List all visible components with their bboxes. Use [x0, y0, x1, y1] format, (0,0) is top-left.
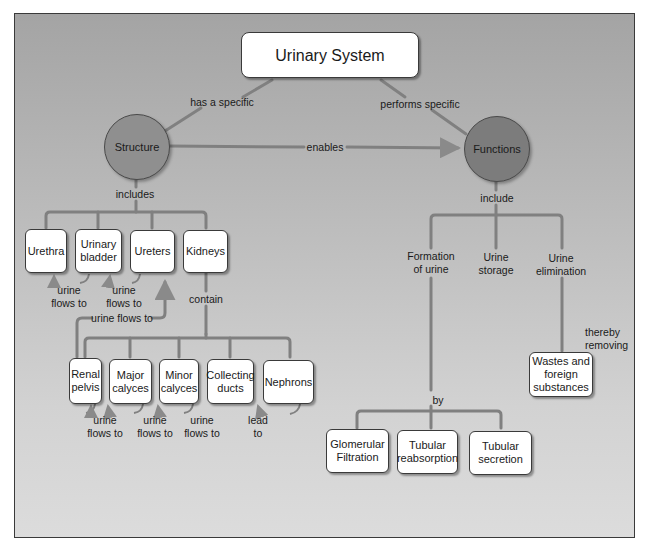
link-label-lead-to: lead to	[243, 414, 273, 440]
node-urine-elimination[interactable]: Urine elimination	[529, 252, 593, 278]
node-urethra[interactable]: Urethra	[25, 229, 67, 273]
node-structure[interactable]: Structure	[104, 114, 170, 180]
node-urinary-bladder[interactable]: Urinary bladder	[75, 229, 122, 273]
node-major-calyces[interactable]: Major calyces	[109, 359, 152, 404]
link-label-urine-flows-to-5: urine flows to	[133, 414, 177, 440]
node-label: Tubular secretion	[472, 440, 529, 466]
link-label-urine-flows-to-1: urine flows to	[47, 284, 91, 310]
link-label-by: by	[432, 394, 443, 407]
node-renal-pelvis[interactable]: Renal pelvis	[69, 358, 102, 404]
node-label: Nephrons	[265, 376, 313, 389]
link-label-enables: enables	[307, 141, 344, 154]
node-label: Glomerular Filtration	[329, 438, 386, 464]
node-label: Tubular reabsorption	[397, 439, 458, 465]
node-label: Ureters	[134, 245, 170, 258]
node-label: Renal pelvis	[71, 368, 100, 394]
node-label: Structure	[115, 141, 160, 153]
link-label-include: include	[480, 192, 513, 205]
node-glomerular-filtration[interactable]: Glomerular Filtration	[326, 429, 389, 473]
link-label-thereby-removing: thereby removing	[585, 326, 631, 352]
node-label: Kidneys	[186, 245, 225, 258]
node-label: Functions	[473, 143, 521, 155]
node-minor-calyces[interactable]: Minor calyces	[159, 359, 199, 404]
node-label: Collecting ducts	[206, 369, 254, 395]
link-label-urine-flows-to-6: urine flows to	[180, 414, 224, 440]
node-label: Urinary System	[275, 49, 384, 62]
node-urine-storage[interactable]: Urine storage	[472, 251, 520, 277]
link-label-urine-flows-to-2: urine flows to	[102, 284, 146, 310]
node-collecting-ducts[interactable]: Collecting ducts	[207, 359, 254, 404]
node-tubular-secretion[interactable]: Tubular secretion	[469, 431, 532, 475]
link-label-urine-flows-to-3: urine flows to	[91, 312, 153, 325]
node-label: Urethra	[28, 245, 65, 258]
node-wastes-and-foreign-substances[interactable]: Wastes and foreign substances	[529, 352, 593, 397]
node-label: Minor calyces	[161, 369, 198, 395]
link-label-contain: contain	[189, 293, 223, 306]
node-label: Major calyces	[112, 369, 149, 395]
node-tubular-reabsorption[interactable]: Tubular reabsorption	[397, 430, 458, 474]
node-ureters[interactable]: Ureters	[130, 230, 175, 273]
link-label-has-a-specific: has a specific	[190, 96, 254, 109]
node-kidneys[interactable]: Kidneys	[183, 230, 228, 273]
node-formation-of-urine[interactable]: Formation of urine	[402, 250, 460, 276]
link-label-urine-flows-to-4: urine flows to	[83, 414, 127, 440]
node-nephrons[interactable]: Nephrons	[263, 360, 314, 404]
node-label: Wastes and foreign substances	[532, 355, 590, 394]
link-label-includes: includes	[116, 188, 155, 201]
link-label-performs-specific: performs specific	[380, 98, 459, 111]
node-urinary-system[interactable]: Urinary System	[241, 32, 419, 78]
node-label: Urinary bladder	[78, 238, 119, 264]
node-functions[interactable]: Functions	[464, 116, 530, 182]
